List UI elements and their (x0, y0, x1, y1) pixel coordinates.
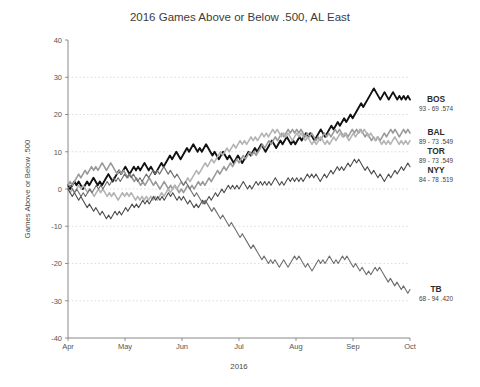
chart-container: 2016 Games Above or Below .500, AL East … (0, 0, 480, 387)
legend-team-nyy: NYY (427, 165, 445, 175)
line-chart: 2016 Games Above or Below .500, AL East … (0, 0, 480, 387)
legend-record-tb: 68 - 94 .420 (419, 295, 454, 302)
x-tick-label: Jun (176, 342, 188, 351)
legend-team-tor: TOR (427, 146, 445, 156)
x-tick-label: Apr (62, 342, 74, 351)
x-tick-label: Jul (234, 342, 244, 351)
chart-background (0, 0, 480, 387)
y-tick-label: -10 (51, 222, 62, 231)
y-tick-label: 30 (54, 73, 62, 82)
legend-team-bos: BOS (427, 94, 446, 104)
y-tick-label: -30 (51, 297, 62, 306)
legend-team-tb: TB (430, 284, 441, 294)
y-tick-label: -40 (51, 334, 62, 343)
legend-record-bos: 93 - 69 .574 (419, 105, 454, 112)
y-tick-label: 0 (58, 185, 62, 194)
legend-record-nyy: 84 - 78 .519 (419, 176, 454, 183)
chart-title: 2016 Games Above or Below .500, AL East (130, 11, 351, 23)
legend-team-bal: BAL (427, 127, 444, 137)
x-axis-label: 2016 (230, 362, 247, 371)
legend-record-tor: 89 - 73 .549 (419, 157, 454, 164)
y-tick-label: 10 (54, 148, 62, 157)
x-tick-label: Sep (346, 342, 359, 351)
y-tick-label: 40 (54, 36, 62, 45)
x-tick-label: May (118, 342, 132, 351)
y-tick-label: -20 (51, 259, 62, 268)
y-tick-label: 20 (54, 110, 62, 119)
x-tick-label: Oct (404, 342, 417, 351)
y-axis-label: Games Above or Below .500 (23, 139, 32, 238)
x-tick-label: Aug (289, 342, 302, 351)
legend-record-bal: 89 - 73 .549 (419, 138, 454, 145)
